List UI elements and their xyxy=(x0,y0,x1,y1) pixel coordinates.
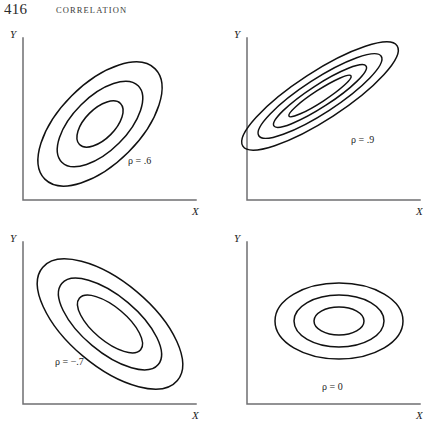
axis-lines xyxy=(23,242,196,404)
axes-panel-1 xyxy=(23,38,196,200)
contour-inner xyxy=(286,71,355,121)
x-axis-label: X xyxy=(415,409,423,421)
running-head: 416 CORRELATION xyxy=(0,0,423,24)
y-axis-label: Y xyxy=(234,28,242,40)
contour-inner xyxy=(68,285,151,362)
contours-panel-3 xyxy=(16,235,205,412)
contour-outer xyxy=(230,26,410,166)
rho-value-label: ρ = .9 xyxy=(351,134,374,145)
axis-lines xyxy=(23,38,196,200)
axis-lines xyxy=(247,242,420,404)
contour-outer xyxy=(17,41,184,208)
panel-rho-0: Y X ρ = 0 xyxy=(212,226,423,428)
contour-inner xyxy=(69,93,131,155)
page-number: 416 xyxy=(4,1,27,18)
panel-rho-0-6: Y X ρ = .6 xyxy=(0,24,211,226)
contours-panel-4 xyxy=(275,283,403,359)
contour-outer xyxy=(16,235,205,412)
axes-panel-4 xyxy=(247,242,420,404)
x-axis-label: X xyxy=(191,409,200,421)
rho-value-label: ρ = 0 xyxy=(322,381,343,392)
rho-value-label: ρ = −.7 xyxy=(55,356,84,367)
contour-middle xyxy=(294,295,384,347)
panel-rho-0-9: Y X ρ = .9 xyxy=(212,24,423,226)
contours-panel-1 xyxy=(17,41,184,208)
running-head-title: CORRELATION xyxy=(56,5,127,15)
axes-panel-3 xyxy=(23,242,196,404)
correlation-contour-figure: Y X ρ = .6 Y X ρ = .9 xyxy=(0,24,423,428)
x-axis-label: X xyxy=(191,205,200,217)
y-axis-label: Y xyxy=(234,232,242,244)
x-axis-label: X xyxy=(415,205,423,217)
contours-panel-2 xyxy=(230,26,410,166)
rho-value-label: ρ = .6 xyxy=(128,155,151,166)
contour-inner xyxy=(314,307,364,335)
contour-middle xyxy=(44,262,177,386)
y-axis-label: Y xyxy=(10,28,18,40)
y-axis-label: Y xyxy=(10,232,18,244)
panel-rho-neg-0-7: Y X ρ = −.7 xyxy=(0,226,211,428)
